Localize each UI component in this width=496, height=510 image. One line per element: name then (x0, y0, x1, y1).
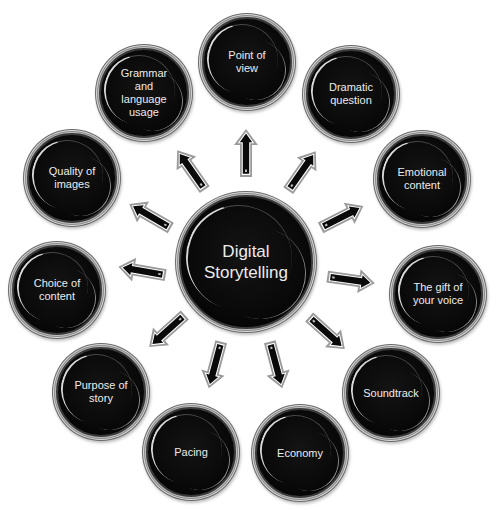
node-economy: Economy (255, 408, 345, 498)
node-label: Point of view (220, 49, 273, 75)
node-label: Dramatic question (321, 81, 381, 107)
center-node-digital-storytelling: Digital Storytelling (179, 195, 313, 329)
node-label: Quality of images (41, 165, 103, 191)
node-soundtrack: Soundtrack (346, 348, 436, 438)
node-pacing: Pacing (146, 407, 236, 497)
arrow-icon-to-pacing (196, 337, 234, 392)
node-label: Grammar and language usage (113, 67, 175, 119)
arrow-icon-to-purpose-of-story (140, 305, 195, 358)
arrow-icon-to-grammar-language-usage (166, 142, 216, 198)
node-dramatic-question: Dramatic question (306, 49, 396, 139)
center-node-label: Digital Storytelling (196, 241, 296, 283)
node-label: Pacing (166, 446, 216, 459)
node-point-of-view: Point of view (202, 17, 292, 107)
node-choice-of-content: Choice of content (12, 245, 102, 335)
arrow-icon-to-point-of-view (233, 128, 259, 178)
node-label: Emotional content (390, 166, 455, 192)
node-quality-of-images: Quality of images (27, 133, 117, 223)
node-emotional-content: Emotional content (377, 134, 467, 224)
node-grammar-language-usage: Grammar and language usage (99, 48, 189, 138)
arrow-icon-to-economy (257, 337, 295, 392)
arrow-icon-to-choice-of-content (115, 254, 169, 288)
node-label: Economy (269, 447, 331, 460)
arrow-icon-to-gift-of-voice (324, 264, 377, 297)
node-purpose-of-story: Purpose of story (56, 347, 146, 437)
node-gift-of-voice: The gift of your voice (393, 249, 483, 339)
node-label: Soundtrack (355, 387, 427, 400)
digital-storytelling-diagram: Digital Storytelling Point of viewDramat… (0, 0, 496, 510)
arrow-icon-to-dramatic-question (277, 143, 327, 199)
arrow-icon-to-soundtrack (300, 307, 355, 360)
arrow-icon-to-quality-of-images (122, 192, 178, 240)
node-label: Purpose of story (66, 379, 135, 405)
node-label: The gift of your voice (405, 281, 471, 307)
node-label: Choice of content (26, 277, 88, 303)
arrow-icon-to-emotional-content (314, 194, 370, 240)
